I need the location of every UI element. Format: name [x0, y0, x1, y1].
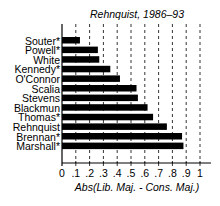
bar — [62, 85, 137, 92]
bar — [62, 47, 98, 54]
x-tick-label: .7 — [154, 167, 163, 179]
x-tick-label: .2 — [85, 167, 94, 179]
x-tick-label: 1 — [197, 167, 203, 179]
y-tick-label: Marshall* — [16, 141, 60, 151]
bar — [62, 75, 120, 82]
bar — [62, 114, 153, 121]
x-tick-label: .1 — [71, 167, 80, 179]
x-tick-label: .5 — [127, 167, 136, 179]
x-tick-label: .8 — [168, 167, 177, 179]
x-tick-label: 0 — [59, 167, 65, 179]
x-axis-label: Abs(Lib. Maj. - Cons. Maj.) — [62, 181, 212, 193]
x-tick-label: .6 — [140, 167, 149, 179]
bar — [62, 66, 110, 73]
bar — [62, 133, 182, 140]
bar — [62, 95, 138, 102]
x-tick-label: .4 — [113, 167, 122, 179]
x-tick-label: .9 — [182, 167, 191, 179]
chart: Rehnquist, 1986–93 Souter*Powell*WhiteKe… — [0, 0, 220, 206]
bar — [62, 56, 99, 63]
x-tick-label: .3 — [99, 167, 108, 179]
bar — [62, 143, 183, 150]
bar — [62, 123, 167, 129]
bar — [62, 104, 148, 111]
bar — [62, 37, 80, 44]
